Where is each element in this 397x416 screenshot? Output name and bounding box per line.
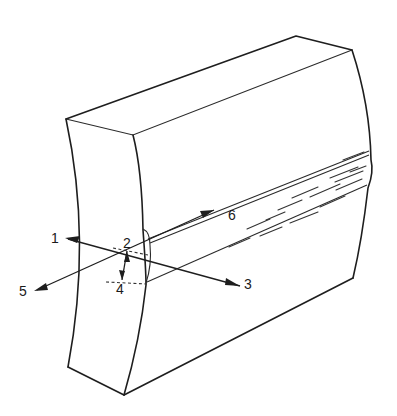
label-4: 4 xyxy=(116,281,124,297)
label-3: 3 xyxy=(244,276,252,292)
arrowhead-4-icon xyxy=(119,270,125,280)
block-side-face xyxy=(124,50,372,395)
label-6: 6 xyxy=(228,207,236,223)
direction-arrows xyxy=(34,210,240,291)
label-1: 1 xyxy=(51,230,59,246)
arrowhead-3-icon xyxy=(225,278,240,286)
block-diagram-svg: 1 2 3 4 5 6 xyxy=(0,0,397,416)
label-5: 5 xyxy=(19,283,27,299)
arrowhead-2-icon xyxy=(124,251,130,262)
label-2: 2 xyxy=(123,235,131,251)
weld-bead xyxy=(143,151,369,283)
block-top-face xyxy=(66,36,352,135)
dashed-line-bottom xyxy=(106,282,147,284)
arrowhead-5-icon xyxy=(34,283,48,291)
diagram-figure: 1 2 3 4 5 6 xyxy=(0,0,397,416)
